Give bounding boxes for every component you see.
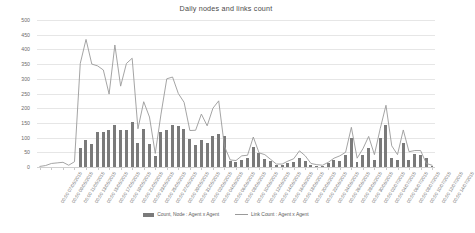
x-axis-tick	[421, 168, 422, 170]
x-axis-tick	[63, 168, 64, 170]
y-axis-tick-label: 250	[21, 91, 30, 97]
x-axis-tick	[409, 168, 410, 170]
x-axis-tick	[386, 168, 387, 170]
x-axis-tick	[201, 168, 202, 170]
x-axis-tick	[167, 168, 168, 170]
x-axis-tick	[248, 168, 249, 170]
x-axis-tick	[74, 168, 75, 170]
x-axis-tick	[398, 168, 399, 170]
y-axis-tick-label: 50	[24, 149, 30, 155]
link-count-line	[40, 39, 432, 166]
y-axis-tick-label: 500	[21, 17, 30, 23]
x-axis-tick	[328, 168, 329, 170]
legend-label-node-count: Count, Node : Agent x Agent	[157, 212, 219, 217]
x-axis-tick	[40, 168, 41, 170]
y-axis-tick-label: 450	[21, 32, 30, 38]
x-axis-tick	[86, 168, 87, 170]
bar-swatch-icon	[143, 213, 154, 217]
y-axis-tick-label: 150	[21, 120, 30, 126]
x-axis-tick	[155, 168, 156, 170]
x-axis-labels: 00:00 07/05/201500:00 09/05/201500:00 11…	[37, 168, 435, 210]
x-axis-tick	[374, 168, 375, 170]
line-swatch-icon	[235, 214, 248, 215]
legend-item-node-count[interactable]: Count, Node : Agent x Agent	[143, 212, 219, 217]
x-axis-tick	[51, 168, 52, 170]
x-axis-tick	[132, 168, 133, 170]
y-axis-tick-label: 200	[21, 105, 30, 111]
x-axis-tick	[109, 168, 110, 170]
x-axis-tick	[224, 168, 225, 170]
x-axis-tick	[305, 168, 306, 170]
y-axis-labels: 050100150200250300350400450500	[0, 20, 33, 167]
legend-label-link-count: Link Count : Agent x Agent	[251, 212, 309, 217]
y-axis-tick-label: 300	[21, 76, 30, 82]
x-axis-tick	[190, 168, 191, 170]
x-axis-tick	[236, 168, 237, 170]
x-axis-tick	[178, 168, 179, 170]
x-axis-tick	[282, 168, 283, 170]
x-axis-tick	[144, 168, 145, 170]
legend-item-link-count[interactable]: Link Count : Agent x Agent	[235, 212, 309, 217]
x-axis-tick	[363, 168, 364, 170]
x-axis-tick	[213, 168, 214, 170]
x-axis-tick	[340, 168, 341, 170]
x-axis-tick	[351, 168, 352, 170]
x-axis-tick	[259, 168, 260, 170]
y-axis-tick-label: 350	[21, 61, 30, 67]
x-axis-tick	[317, 168, 318, 170]
plot-area	[37, 20, 435, 167]
y-axis-tick-label: 100	[21, 135, 30, 141]
line-series	[37, 20, 435, 167]
x-axis-tick	[271, 168, 272, 170]
y-axis-tick-label: 400	[21, 46, 30, 52]
y-axis-tick-label: 0	[27, 164, 30, 170]
x-axis-tick	[98, 168, 99, 170]
x-axis-tick	[121, 168, 122, 170]
chart-title: Daily nodes and links count	[0, 4, 452, 13]
x-axis-tick	[294, 168, 295, 170]
chart-legend: Count, Node : Agent x Agent Link Count :…	[0, 212, 452, 217]
x-axis-tick	[432, 168, 433, 170]
